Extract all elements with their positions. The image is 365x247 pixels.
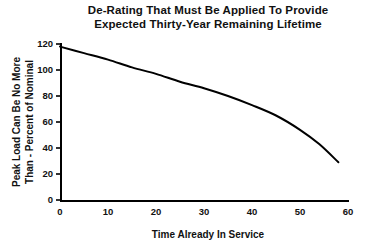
x-tick-label: 10 bbox=[103, 206, 114, 217]
y-tick-label: 40 bbox=[42, 142, 53, 153]
chart-title-line-1: De-Rating That Must Be Applied To Provid… bbox=[88, 4, 329, 16]
y-tick-label: 120 bbox=[37, 38, 53, 49]
y-axis-title-line-1: Peak Load Can Be No More bbox=[11, 57, 22, 187]
y-axis-title-line-2: Than - Percent of Nominal bbox=[24, 60, 35, 184]
y-tick-label: 20 bbox=[42, 168, 53, 179]
x-axis: 0102030405060 bbox=[57, 206, 353, 217]
y-axis: 020406080100120 bbox=[37, 38, 61, 205]
x-tick-label: 40 bbox=[247, 206, 258, 217]
derating-curve-line bbox=[60, 47, 338, 163]
x-tick-label: 0 bbox=[57, 206, 62, 217]
axis-lines bbox=[61, 44, 348, 201]
chart-title-line-2: Expected Thirty-Year Remaining Lifetime bbox=[94, 18, 322, 30]
derating-line-chart: De-Rating That Must Be Applied To Provid… bbox=[0, 0, 365, 247]
x-axis-title: Time Already In Service bbox=[152, 229, 265, 240]
x-tick-label: 30 bbox=[199, 206, 210, 217]
chart-figure: De-Rating That Must Be Applied To Provid… bbox=[0, 0, 365, 247]
chart-title: De-Rating That Must Be Applied To Provid… bbox=[88, 4, 329, 30]
y-tick-label: 0 bbox=[48, 194, 53, 205]
y-tick-label: 100 bbox=[37, 64, 53, 75]
y-tick-label: 60 bbox=[42, 116, 53, 127]
y-tick-label: 80 bbox=[42, 90, 53, 101]
y-axis-title: Peak Load Can Be No More Than - Percent … bbox=[11, 57, 35, 187]
x-tick-label: 20 bbox=[151, 206, 162, 217]
x-tick-label: 50 bbox=[295, 206, 306, 217]
x-tick-label: 60 bbox=[343, 206, 354, 217]
